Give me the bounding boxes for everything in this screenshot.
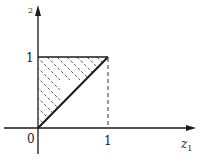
- origin-label: 0: [27, 132, 35, 146]
- x-axis-label-sub: 1: [187, 144, 192, 153]
- hatch-pattern: [30, 50, 130, 140]
- x-axis-label: z1: [180, 137, 192, 153]
- diagram-canvas: 2 1 0 1 z1: [0, 0, 203, 163]
- triangle-diagonal: [38, 57, 108, 128]
- x-tick-label: 1: [104, 134, 112, 148]
- y-tick-label: 1: [26, 51, 34, 65]
- x-axis-arrow-icon: [186, 125, 196, 131]
- y-axis-label: 2: [28, 6, 33, 15]
- y-axis-arrow-icon: [35, 5, 41, 16]
